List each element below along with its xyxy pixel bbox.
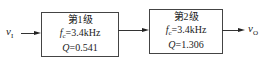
inter-stage-connector bbox=[118, 30, 142, 31]
stage-2-fc: fc=3.4kHz bbox=[166, 24, 207, 40]
q-symbol: Q bbox=[62, 42, 69, 53]
input-subscript: I bbox=[11, 32, 13, 40]
stage-1-q: Q=0.541 bbox=[62, 42, 97, 55]
input-connector bbox=[21, 33, 35, 34]
output-signal-label: vO bbox=[248, 22, 258, 37]
output-connector bbox=[222, 30, 239, 31]
input-signal-label: vI bbox=[6, 25, 13, 40]
stage-1-block: 第1级 fc=3.4kHz Q=0.541 bbox=[41, 12, 119, 57]
input-arrowhead-icon bbox=[34, 31, 41, 35]
q-symbol: Q bbox=[168, 39, 175, 50]
fc-value: =3.4kHz bbox=[66, 27, 101, 38]
output-subscript: O bbox=[253, 29, 258, 37]
fc-value: =3.4kHz bbox=[172, 24, 207, 35]
stage-2-title: 第2级 bbox=[174, 11, 199, 24]
stage-1-title: 第1级 bbox=[68, 14, 93, 27]
stage-1-fc: fc=3.4kHz bbox=[60, 27, 101, 43]
stage-2-q: Q=1.306 bbox=[168, 39, 203, 52]
stage-2-block: 第2级 fc=3.4kHz Q=1.306 bbox=[149, 9, 223, 54]
q-value: =1.306 bbox=[176, 39, 204, 50]
inter-stage-arrowhead-icon bbox=[142, 28, 149, 32]
q-value: =0.541 bbox=[70, 42, 98, 53]
output-arrowhead-icon bbox=[238, 28, 245, 32]
